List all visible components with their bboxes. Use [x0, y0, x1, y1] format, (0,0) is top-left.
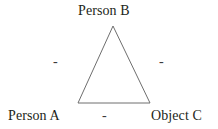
edge-label-a-b-minus: - [53, 55, 58, 69]
node-label-object-c: Object C [151, 109, 202, 123]
balance-triangle-diagram: Person B Person A Object C - - - [0, 0, 218, 129]
node-label-person-a: Person A [8, 109, 60, 123]
edge-label-b-c-minus: - [159, 55, 164, 69]
triangle-outline [78, 26, 150, 103]
node-label-person-b: Person B [78, 4, 130, 18]
edge-label-a-c-minus: - [102, 109, 107, 123]
